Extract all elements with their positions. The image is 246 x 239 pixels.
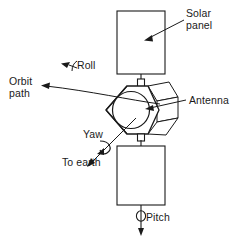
- antenna-label: Antenna: [189, 95, 229, 107]
- roll-arrowhead: [61, 62, 70, 68]
- diagram-canvas: [0, 0, 246, 239]
- lower-solar-panel: [117, 146, 165, 205]
- upper-solar-panel: [117, 11, 165, 74]
- yaw-axis-label: Yaw: [83, 129, 103, 141]
- lower-mast-connector: [138, 134, 145, 141]
- to-earth-label: To earth: [62, 157, 101, 169]
- yaw-rotation-arrowhead: [97, 148, 104, 155]
- roll-axis-label: Roll: [77, 60, 96, 72]
- orbit-path-arrowhead: [41, 83, 50, 90]
- pitch-axis-label: Pitch: [146, 212, 170, 224]
- solar-panel-label: Solar panel: [186, 8, 212, 31]
- satellite-attitude-diagram: Solar panel Orbit path Roll Antenna Yaw …: [0, 0, 246, 239]
- orbit-path-label: Orbit path: [9, 76, 32, 99]
- pitch-arrowhead: [138, 228, 144, 236]
